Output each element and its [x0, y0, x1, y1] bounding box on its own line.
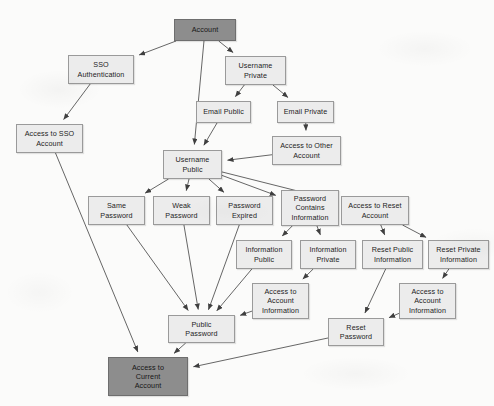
edge-account-to-username_public [194, 41, 204, 144]
edge-same_password-to-public_password [127, 225, 188, 310]
node-sso_auth[interactable]: SSO Authentication [68, 55, 134, 84]
node-username_public[interactable]: Username Public [163, 150, 222, 179]
edge-reset_public-to-reset_password [365, 269, 386, 313]
node-access_reset[interactable]: Access to Reset Account [341, 196, 409, 225]
edge-username_public-to-password_expired [209, 179, 224, 192]
edge-access_acct_1-to-public_password [240, 311, 252, 315]
node-email_private[interactable]: Email Private [277, 101, 334, 123]
node-info_public[interactable]: Information Public [236, 240, 292, 269]
node-reset_password[interactable]: Reset Password [328, 318, 384, 346]
edge-username_private-to-email_private [273, 85, 288, 97]
node-username_private[interactable]: Username Private [225, 56, 286, 85]
edge-password_expired-to-public_password [208, 225, 239, 310]
edge-reset_private-to-access_acct_2 [443, 269, 449, 278]
edge-access_other-to-username_public [228, 155, 272, 160]
node-access_acct_2[interactable]: Access to Account Information [399, 283, 456, 319]
node-reset_public[interactable]: Reset Public Information [362, 240, 423, 269]
node-access_current[interactable]: Access to Current Account [108, 357, 188, 396]
node-reset_private[interactable]: Reset Private Information [428, 240, 489, 269]
edge-access_sso-to-access_current [56, 153, 138, 352]
node-pwd_contains[interactable]: Password Contains Information [281, 190, 339, 226]
node-info_private[interactable]: Information Private [300, 240, 356, 269]
node-password_expired[interactable]: Password Expired [216, 196, 273, 225]
edge-account-to-username_private [219, 41, 233, 53]
node-access_other[interactable]: Access to Other Account [272, 136, 341, 165]
edge-sso_auth-to-access_sso [64, 84, 91, 120]
node-email_public[interactable]: Email Public [196, 101, 251, 123]
edge-account-to-sso_auth [139, 41, 176, 55]
node-public_password[interactable]: Public Password [168, 315, 235, 343]
edge-email_public-to-username_public [204, 123, 217, 145]
node-access_sso[interactable]: Access to SSO Account [16, 124, 83, 153]
edge-info_public-to-public_password [217, 269, 252, 311]
node-same_password[interactable]: Same Password [88, 196, 145, 225]
edge-username_public-to-weak_password [186, 179, 189, 191]
edge-pwd_contains-to-info_public [282, 226, 292, 236]
edge-access_reset-to-reset_public [381, 225, 385, 235]
node-weak_password[interactable]: Weak Password [153, 196, 210, 225]
edge-public_password-to-access_current [174, 343, 186, 353]
edge-info_private-to-access_acct_1 [303, 269, 313, 279]
edge-weak_password-to-public_password [184, 225, 198, 309]
edge-pwd_contains-to-info_private [317, 226, 320, 235]
edge-username_public-to-same_password [145, 179, 168, 193]
diagram-canvas: AccountSSO AuthenticationUsername Privat… [0, 0, 494, 406]
node-account[interactable]: Account [174, 19, 236, 41]
node-access_acct_1[interactable]: Access to Account Information [252, 283, 309, 319]
edge-access_reset-to-reset_private [403, 225, 427, 237]
edge-username_private-to-email_public [235, 85, 244, 97]
edge-access_acct_2-to-reset_password [389, 313, 399, 317]
